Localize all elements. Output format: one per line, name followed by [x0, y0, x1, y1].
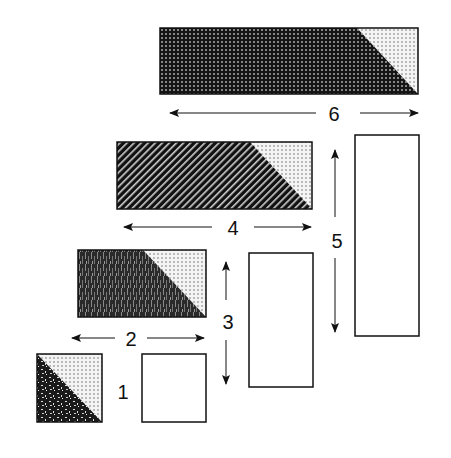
- dimension-arrow-4: 4: [124, 217, 311, 239]
- rect-3-empty: [249, 253, 313, 387]
- rect-6: [160, 28, 418, 94]
- square-1: [37, 354, 102, 422]
- square-1-empty: [142, 354, 206, 422]
- label-3: 3: [222, 311, 233, 333]
- label-6: 6: [328, 103, 339, 125]
- rect-5-empty: [355, 135, 419, 336]
- dimension-arrow-5: 5: [331, 150, 342, 332]
- dimension-arrow-3: 3: [222, 262, 233, 384]
- label-5: 5: [331, 230, 342, 252]
- label-2: 2: [125, 328, 136, 350]
- dimension-arrow-6: 6: [170, 103, 418, 125]
- label-4: 4: [227, 217, 238, 239]
- label-1: 1: [117, 381, 128, 403]
- rect-4: [117, 142, 312, 209]
- dimension-arrow-2: 2: [72, 328, 204, 350]
- rect-2: [78, 250, 206, 317]
- diagram-canvas: 6 4 5 2 3: [0, 0, 451, 458]
